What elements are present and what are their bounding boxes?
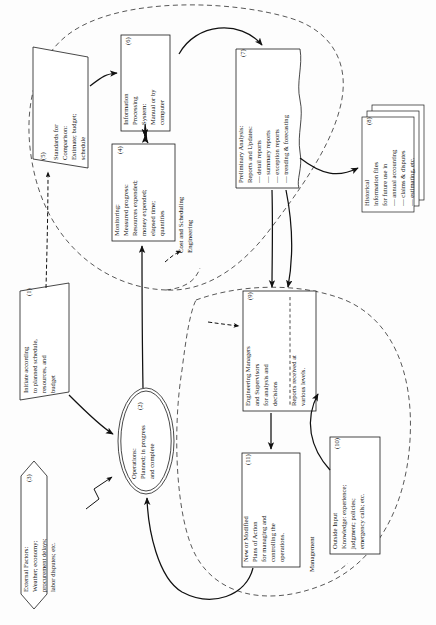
zone-label-cost-scheduling: Cost and Scheduling Engineering: [177, 196, 193, 253]
node-7-line-3: — detail reports: [255, 140, 262, 184]
node-5-line-1: Standards for: [52, 124, 59, 160]
node-8-line-2: information files: [372, 161, 379, 206]
edge-1-to-2: [69, 395, 113, 434]
node-6-number: (6): [124, 37, 132, 45]
node-10-number: (10): [333, 438, 341, 449]
node-4-line-5: elapsed time;: [149, 201, 156, 236]
node-3-line-4: labor disputes; etc.: [49, 542, 56, 592]
node-9-second-line-2: various levels.: [299, 368, 306, 406]
pointer-management-label: [334, 563, 348, 573]
node-6-line-2: Processing: [131, 96, 138, 125]
zone-label-cost-scheduling-line1: Cost and Scheduling: [177, 196, 184, 253]
node-8-line-5: — claims & disputes: [399, 150, 406, 207]
node-9-line-3: for analysis and: [262, 364, 269, 406]
node-11-number: (11): [244, 454, 252, 465]
node-6-text: (6): [124, 37, 132, 45]
node-10-line-4: emergency calls; etc.: [358, 493, 365, 549]
edge-7-to-8: [300, 158, 358, 174]
node-2-number: (2): [136, 402, 144, 410]
edge-3-to-2: [86, 477, 112, 509]
node-9-text: (9): [246, 292, 254, 300]
node-2-line-1: Operations:: [130, 448, 137, 479]
node-8-text: (8): [365, 117, 373, 125]
zone-label-management-text: Management: [308, 536, 315, 572]
diagram-canvas: (5) Standards for Comparison: Estimate; …: [0, 0, 436, 625]
node-5-number: (5): [39, 152, 47, 160]
node-1-line-3: resources, and: [40, 355, 47, 393]
node-3-text: (3): [25, 474, 33, 482]
node-11-text: (11): [244, 454, 252, 465]
node-9-line-4: decisions: [271, 381, 278, 406]
node-11-line-1: New or Modified: [242, 516, 249, 562]
node-9-line-1: Engineering Managers: [244, 346, 251, 406]
node-7-line-6: — trending & forecasting: [282, 114, 289, 184]
node-7-number: (7): [239, 49, 247, 57]
node-6-line-3: System:: [140, 104, 147, 125]
node-8-line-6: — estimating, etc.: [408, 157, 415, 207]
node-10-text: (10): [333, 438, 341, 449]
node-2-shape: [118, 388, 174, 494]
node-1-line-2: to planned schedule,: [31, 339, 38, 393]
node-3-line-2: Weather; economy;: [31, 541, 38, 592]
node-1-number: (1): [25, 288, 33, 296]
node-9-number: (9): [246, 292, 254, 300]
node-8-line-1: Historical: [363, 180, 370, 206]
node-9-second-line-1: Reports received at: [290, 355, 297, 406]
zone-label-management: Management: [308, 536, 315, 572]
node-7-line-1: Preliminary Analysis:: [237, 126, 244, 183]
node-4-line-2: Measured progress:: [122, 184, 129, 236]
node-3-number: (3): [25, 474, 33, 482]
node-4-line-3: Resources expended;: [131, 180, 138, 236]
node-9-line-2: and Supervisors: [253, 363, 260, 406]
node-8-line-4: — annual accounting: [390, 149, 397, 207]
edge-5-to-6: [90, 73, 117, 86]
edge-10-to-11: [310, 394, 330, 470]
node-4-line-1: Monitoring:: [113, 204, 120, 236]
edge-2-to-4: [142, 246, 143, 388]
node-5-line-4: schedule: [79, 137, 86, 160]
edge-11-to-2: [147, 498, 253, 599]
node-11-line-5: operations.: [278, 533, 285, 562]
node-4-line-4: money expended;: [140, 189, 147, 236]
node-11-line-2: Plans of Action: [251, 521, 258, 562]
node-10-line-3: judgment; policies;: [349, 498, 356, 550]
node-6-line-4: Manual or by: [149, 89, 156, 125]
node-1-text: (1): [25, 288, 33, 296]
node-8-number: (8): [365, 117, 373, 125]
node-7-line-4: — summary reports: [264, 130, 271, 184]
node-10-line-1: Outside Input: [331, 513, 338, 549]
node-7-text: (7): [239, 49, 247, 57]
node-2-text: (2): [136, 402, 144, 410]
edge-7-to-9: [272, 190, 292, 287]
node-1-line-4: budget: [49, 375, 56, 393]
node-5-text: (5): [39, 152, 47, 160]
node-7-line-5: — exception reports: [273, 129, 280, 184]
zone-label-cost-scheduling-line2: Engineering: [186, 219, 193, 253]
node-6-line-5: computer: [158, 99, 165, 125]
node-8-line-3: for future use in: [381, 163, 388, 206]
node-4-line-6: quantities: [158, 210, 165, 236]
node-3-line-3: procurement delays;: [40, 538, 47, 592]
flowchart-diagram: (5) Standards for Comparison: Estimate; …: [0, 0, 436, 625]
edge-into-9-left: [208, 322, 239, 326]
node-2-line-2: Planned; in progress: [139, 425, 146, 479]
node-2-line-3: and complete: [148, 444, 155, 479]
node-6-line-1: Information: [122, 93, 129, 125]
node-11-line-3: for managing and: [260, 515, 267, 562]
node-3-line-1: External Factors:: [22, 547, 29, 592]
node-4-text: (4): [116, 146, 124, 154]
node-11-line-4: controlling the: [269, 523, 276, 562]
node-4-number: (4): [116, 146, 124, 154]
node-10-line-2: Knowledge: experience;: [340, 485, 347, 549]
node-1-line-1: Initiate according: [22, 346, 29, 393]
node-7-line-2: Reports and Updates:: [246, 126, 253, 183]
node-5-line-3: Estimate; budget;: [70, 114, 77, 160]
node-5-line-2: Comparison:: [61, 126, 68, 160]
edge-1-to-5: [46, 172, 48, 288]
